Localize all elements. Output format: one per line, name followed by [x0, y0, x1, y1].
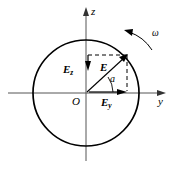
z-axis-label: z: [91, 6, 95, 17]
y-axis: [8, 90, 166, 96]
diagram-canvas: [0, 0, 177, 169]
z-axis: [83, 7, 89, 161]
field-vector-label: E: [100, 62, 107, 73]
y-axis-label: y: [158, 96, 163, 107]
component-y-label: Ey: [101, 97, 112, 108]
omega-arrowhead: [124, 29, 133, 36]
field-vector-E: [87, 54, 128, 92]
Ey-arrowhead: [117, 89, 127, 95]
component-vector-Ey: [89, 89, 127, 95]
component-y-subscript: y: [108, 101, 111, 110]
polarization-diagram: z y O E Ez Ey a ω: [0, 0, 177, 169]
z-axis-arrowhead: [83, 7, 89, 16]
component-z-label: Ez: [63, 64, 73, 75]
angular-velocity-label: ω: [152, 29, 159, 39]
origin-label: O: [72, 96, 80, 107]
component-z-subscript: z: [70, 68, 73, 77]
angle-label: a: [110, 74, 115, 84]
omega-rotation-arc: [124, 29, 152, 50]
